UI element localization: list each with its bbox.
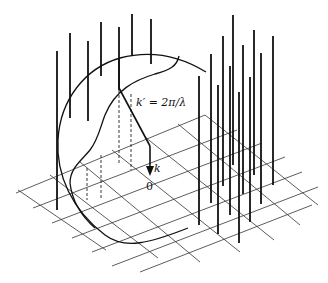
ewald-sphere-diagram: k′ = 2π/λ k 0 — [0, 0, 328, 283]
k-vector — [146, 146, 154, 176]
origin-label: 0 — [146, 180, 153, 193]
k-prime-label: k′ = 2π/λ — [136, 96, 186, 109]
k-label: k — [154, 162, 161, 175]
sphere-intersection-curve — [70, 56, 179, 228]
